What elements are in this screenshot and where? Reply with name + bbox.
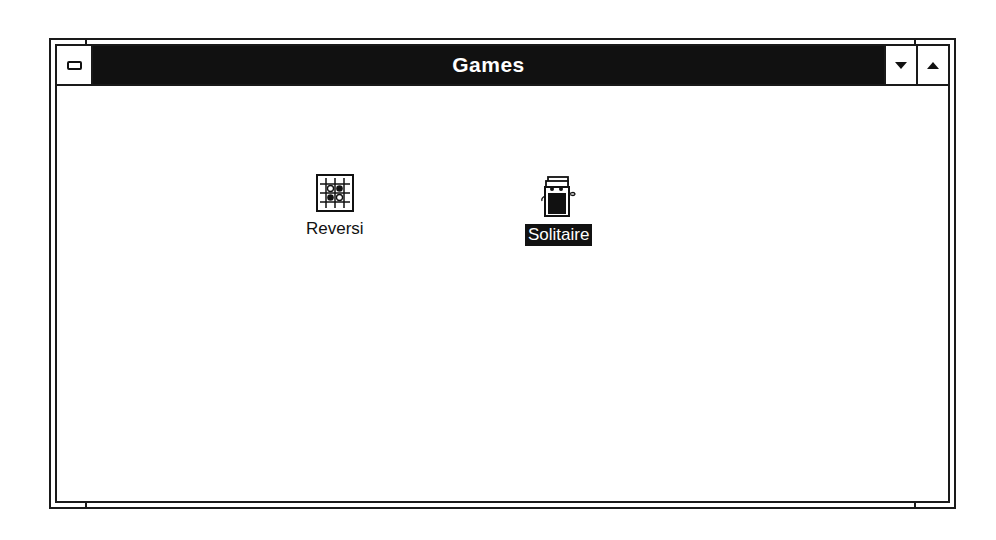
window-inner-frame: Games [55,44,950,503]
system-menu-icon [67,61,82,70]
maximize-button[interactable] [916,46,948,84]
games-program-group-window: Games [49,38,956,509]
maximize-arrow-icon [927,62,939,69]
system-menu-button[interactable] [57,46,93,84]
solitaire-label: Solitaire [525,224,592,246]
reversi-board-icon [316,174,354,212]
solitaire-program-item[interactable]: Solitaire [525,176,592,246]
window-title: Games [93,46,884,84]
program-group-client-area: Reversi Solitaire [57,86,948,501]
resize-tick [85,503,87,509]
title-bar[interactable]: Games [57,46,948,86]
reversi-label: Reversi [303,218,367,240]
solitaire-card-deck-icon [539,176,579,218]
resize-tick [914,503,916,509]
minimize-button[interactable] [884,46,916,84]
minimize-arrow-icon [895,62,907,69]
reversi-program-item[interactable]: Reversi [303,174,367,240]
